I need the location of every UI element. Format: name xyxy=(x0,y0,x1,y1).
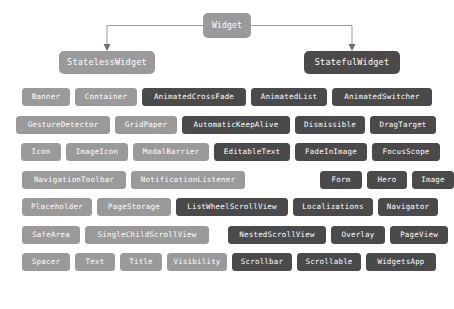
node-label: Form xyxy=(332,176,351,184)
node-label: ImageIcon xyxy=(76,148,118,156)
arrowhead-right xyxy=(349,44,356,51)
connector-right xyxy=(251,26,352,46)
node-form[interactable]: Form xyxy=(320,171,362,189)
node-title[interactable]: Title xyxy=(120,253,162,271)
node-pageview[interactable]: PageView xyxy=(390,226,448,244)
node-navigationtoolbar[interactable]: NavigationToolbar xyxy=(22,171,126,189)
node-container[interactable]: Container xyxy=(75,88,137,106)
node-label: Scrollable xyxy=(305,258,352,266)
node-label: Navigator xyxy=(387,203,429,211)
node-label: FocusScope xyxy=(382,148,429,156)
node-label: Hero xyxy=(378,176,397,184)
node-spacer[interactable]: Spacer xyxy=(22,253,70,271)
node-pagestorage[interactable]: PageStorage xyxy=(97,198,171,216)
node-focusscope[interactable]: FocusScope xyxy=(372,143,440,161)
node-label: NestedScrollView xyxy=(239,231,314,239)
node-label: Visibility xyxy=(173,258,220,266)
node-automatickeepalive[interactable]: AutomaticKeepAlive xyxy=(182,116,290,134)
node-notificationlistener[interactable]: NotificationListener xyxy=(131,171,245,189)
node-label: ListWheelScrollView xyxy=(187,203,277,211)
node-label: AnimatedCrossFade xyxy=(154,93,234,101)
node-label: PageView xyxy=(400,231,438,239)
node-label: Localizations xyxy=(302,203,363,211)
node-label: SafeArea xyxy=(32,231,70,239)
node-label: GridPaper xyxy=(125,121,167,129)
node-dismissible[interactable]: Dismissible xyxy=(295,116,365,134)
node-label: FadeInImage xyxy=(305,148,357,156)
node-label: AnimatedSwitcher xyxy=(344,93,419,101)
node-label: Spacer xyxy=(32,258,60,266)
node-modalbarrier[interactable]: ModalBarrier xyxy=(133,143,209,161)
node-gridpaper[interactable]: GridPaper xyxy=(115,116,177,134)
node-label: Scrollbar xyxy=(241,258,283,266)
node-singlechildscrollview[interactable]: SingleChildScrollView xyxy=(85,226,209,244)
node-banner[interactable]: Banner xyxy=(22,88,70,106)
node-gesturedetector[interactable]: GestureDetector xyxy=(16,116,110,134)
node-label: Image xyxy=(421,176,445,184)
node-label: AnimatedList xyxy=(261,93,318,101)
node-label: StatelessWidget xyxy=(67,58,147,67)
node-listwheelscrollview[interactable]: ListWheelScrollView xyxy=(176,198,288,216)
node-label: NotificationListener xyxy=(141,176,235,184)
node-animatedcrossfade[interactable]: AnimatedCrossFade xyxy=(142,88,246,106)
node-label: Title xyxy=(129,258,153,266)
node-placeholder[interactable]: Placeholder xyxy=(22,198,92,216)
node-scrollbar[interactable]: Scrollbar xyxy=(232,253,292,271)
node-label: Overlay xyxy=(341,231,374,239)
node-localizations[interactable]: Localizations xyxy=(293,198,373,216)
node-dragtarget[interactable]: DragTarget xyxy=(370,116,436,134)
node-label: EditableText xyxy=(224,148,281,156)
node-stateless-widget[interactable]: StatelessWidget xyxy=(59,51,155,74)
widget-hierarchy-diagram: Widget StatelessWidget StatefulWidget Ba… xyxy=(0,0,454,309)
node-stateful-widget[interactable]: StatefulWidget xyxy=(304,51,400,74)
node-label: SingleChildScrollView xyxy=(97,231,196,239)
node-scrollable[interactable]: Scrollable xyxy=(297,253,361,271)
node-fadeinimage[interactable]: FadeInImage xyxy=(295,143,367,161)
node-label: NavigationToolbar xyxy=(34,176,114,184)
node-navigator[interactable]: Navigator xyxy=(378,198,438,216)
node-label: PageStorage xyxy=(108,203,160,211)
node-label: Dismissible xyxy=(304,121,356,129)
connector-left xyxy=(107,26,203,46)
node-widgetsapp[interactable]: WidgetsApp xyxy=(366,253,436,271)
node-widget-root[interactable]: Widget xyxy=(203,13,251,38)
node-label: DragTarget xyxy=(379,121,426,129)
arrowhead-left xyxy=(104,44,111,51)
node-label: Placeholder xyxy=(31,203,83,211)
node-icon[interactable]: Icon xyxy=(21,143,61,161)
node-label: Banner xyxy=(32,93,60,101)
node-label: WidgetsApp xyxy=(377,258,424,266)
node-imageicon[interactable]: ImageIcon xyxy=(66,143,128,161)
node-label: Container xyxy=(85,93,127,101)
node-label: GestureDetector xyxy=(28,121,99,129)
node-editabletext[interactable]: EditableText xyxy=(214,143,290,161)
node-safearea[interactable]: SafeArea xyxy=(22,226,80,244)
node-overlay[interactable]: Overlay xyxy=(331,226,385,244)
node-hero[interactable]: Hero xyxy=(367,171,407,189)
node-image[interactable]: Image xyxy=(412,171,454,189)
node-label: AutomaticKeepAlive xyxy=(194,121,279,129)
node-label: Widget xyxy=(212,22,242,30)
node-label: Text xyxy=(86,258,105,266)
node-animatedlist[interactable]: AnimatedList xyxy=(251,88,327,106)
node-visibility[interactable]: Visibility xyxy=(167,253,227,271)
node-label: Icon xyxy=(32,148,51,156)
node-label: StatefulWidget xyxy=(315,58,389,67)
node-label: ModalBarrier xyxy=(143,148,200,156)
node-nestedscrollview[interactable]: NestedScrollView xyxy=(228,226,326,244)
node-animatedswitcher[interactable]: AnimatedSwitcher xyxy=(332,88,432,106)
node-text[interactable]: Text xyxy=(75,253,115,271)
